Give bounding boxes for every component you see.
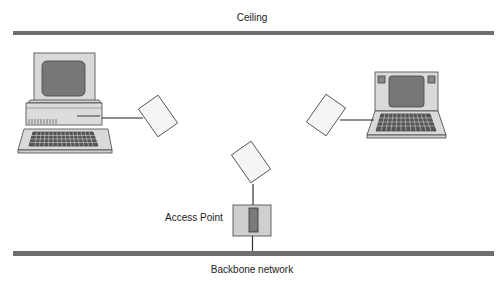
backbone-bar xyxy=(13,251,494,256)
access-point-antenna-icon xyxy=(231,141,270,183)
right-wireless-adapter-icon xyxy=(306,94,345,136)
access-point-label: Access Point xyxy=(165,212,223,223)
backbone-network-label: Backbone network xyxy=(0,264,504,275)
desktop-computer-icon xyxy=(18,53,112,153)
left-wireless-adapter-icon xyxy=(138,95,177,137)
laptop-computer-icon xyxy=(367,72,446,138)
network-diagram xyxy=(0,0,504,281)
access-point-icon xyxy=(233,205,271,236)
ceiling-bar xyxy=(13,31,494,35)
